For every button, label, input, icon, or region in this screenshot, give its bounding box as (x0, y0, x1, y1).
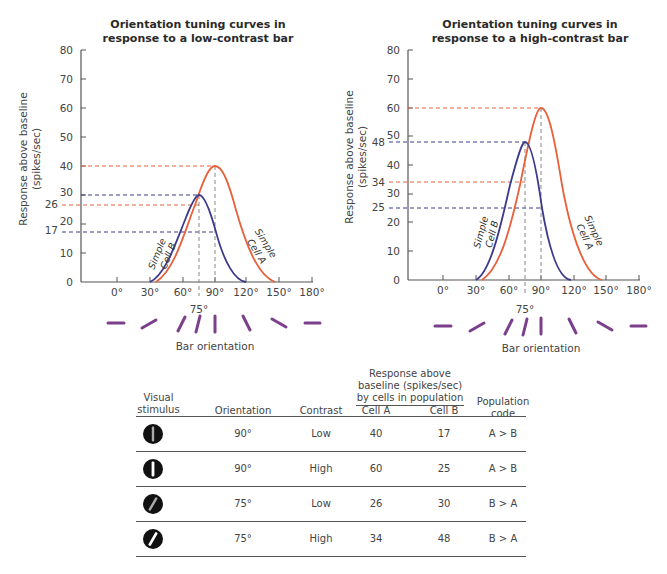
cell-contrast: High (286, 463, 356, 474)
svg-text:90°: 90° (206, 286, 225, 298)
svg-text:20: 20 (60, 215, 73, 227)
table-header: Visualstimulus Orientation Contrast Resp… (136, 368, 526, 416)
cell-b-value: 17 (424, 428, 464, 439)
stimulus-icon-vertical-high (142, 458, 164, 480)
svg-text:120°: 120° (233, 286, 258, 298)
svg-text:150°: 150° (266, 286, 291, 298)
left-y-ticks: 0 10 20 30 40 50 60 70 80 26 17 (45, 44, 86, 288)
svg-text:80: 80 (60, 44, 73, 56)
svg-text:0: 0 (393, 274, 400, 286)
header-visual-stimulus: Visualstimulus (136, 392, 181, 416)
cell-population-code: A > B (473, 463, 533, 474)
cell-a-value: 40 (356, 428, 396, 439)
right-bar-orientation-glyphs (435, 318, 646, 335)
stimulus-icon-tilted-low (142, 493, 164, 515)
cell-a-value: 34 (356, 533, 396, 544)
svg-text:10: 10 (60, 247, 73, 259)
table-row: 75° Low 26 30 B > A (136, 486, 526, 521)
svg-text:0: 0 (66, 276, 73, 288)
right-75-label: 75° (516, 303, 535, 315)
left-x-axis-label: Bar orientation (176, 340, 255, 352)
right-cell-a-label: Simple Cell A (574, 213, 606, 251)
table-row: 90° High 60 25 A > B (136, 451, 526, 486)
left-cell-a-label: Simple Cell A (245, 226, 279, 265)
svg-text:60°: 60° (174, 286, 193, 298)
svg-text:60: 60 (60, 102, 73, 114)
svg-text:30°: 30° (141, 286, 160, 298)
cell-contrast: Low (286, 428, 356, 439)
svg-text:34: 34 (372, 176, 386, 188)
cell-population-code: B > A (473, 498, 533, 509)
svg-text:48: 48 (372, 136, 385, 148)
svg-text:180°: 180° (626, 284, 651, 296)
right-cell-b-curve (476, 142, 571, 280)
svg-text:25: 25 (372, 201, 385, 213)
svg-text:30: 30 (60, 186, 73, 198)
svg-text:180°: 180° (299, 286, 324, 298)
svg-text:120°: 120° (561, 284, 586, 296)
left-guides (62, 166, 215, 296)
left-bar-orientation-glyphs (108, 316, 320, 332)
stimulus-icon-vertical-low (142, 423, 164, 445)
svg-text:40: 40 (60, 160, 73, 172)
svg-text:60: 60 (387, 102, 400, 114)
svg-text:26: 26 (45, 198, 59, 210)
svg-text:0°: 0° (111, 286, 123, 298)
svg-text:70: 70 (60, 73, 73, 85)
svg-text:50: 50 (387, 129, 400, 141)
svg-text:60°: 60° (500, 284, 519, 296)
cell-b-value: 25 (424, 463, 464, 474)
cell-a-value: 26 (356, 498, 396, 509)
svg-text:150°: 150° (593, 284, 618, 296)
left-cell-b-label: Simple Cell B (146, 236, 178, 270)
svg-text:30: 30 (387, 187, 400, 199)
svg-text:30°: 30° (467, 284, 486, 296)
svg-text:17: 17 (45, 224, 58, 236)
population-code-table: Visualstimulus Orientation Contrast Resp… (136, 368, 526, 557)
left-x-ticks: 0° 30° 60° 90° 120° 150° 180° (111, 277, 325, 298)
cell-orientation: 75° (198, 498, 288, 509)
svg-text:90°: 90° (532, 284, 551, 296)
cell-population-code: A > B (473, 428, 533, 439)
cell-orientation: 75° (198, 533, 288, 544)
svg-text:20: 20 (387, 216, 400, 228)
table-row: 75° High 34 48 B > A (136, 521, 526, 557)
cell-contrast: High (286, 533, 356, 544)
cell-a-value: 60 (356, 463, 396, 474)
right-y-ticks: 0 10 20 30 40 50 60 70 80 48 34 25 (372, 44, 413, 286)
cell-b-value: 30 (424, 498, 464, 509)
svg-text:70: 70 (387, 73, 400, 85)
right-chart: 0 10 20 30 40 50 60 70 80 48 34 25 0° 30… (333, 0, 667, 360)
left-chart: 0 10 20 30 40 50 60 70 80 26 17 0° 30° 6… (0, 0, 333, 360)
cell-population-code: B > A (473, 533, 533, 544)
right-x-axis-label: Bar orientation (502, 342, 581, 354)
svg-text:10: 10 (387, 245, 400, 257)
right-cell-a-curve (482, 108, 602, 280)
svg-text:0°: 0° (437, 284, 449, 296)
svg-text:80: 80 (387, 44, 400, 56)
svg-text:50: 50 (60, 131, 73, 143)
cell-orientation: 90° (198, 463, 288, 474)
right-x-ticks: 0° 30° 60° 90° 120° 150° 180° (437, 275, 652, 296)
left-75-label: 75° (190, 303, 209, 315)
header-response-group: Response above baseline (spikes/sec) by … (356, 368, 464, 406)
svg-text:40: 40 (387, 159, 400, 171)
stimulus-icon-tilted-high (142, 528, 164, 550)
cell-orientation: 90° (198, 428, 288, 439)
cell-contrast: Low (286, 498, 356, 509)
cell-b-value: 48 (424, 533, 464, 544)
table-row: 90° Low 40 17 A > B (136, 416, 526, 451)
